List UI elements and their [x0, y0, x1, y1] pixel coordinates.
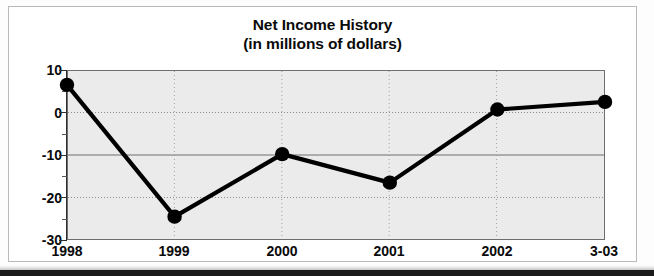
- chart-subtitle: (in millions of dollars): [9, 34, 636, 53]
- data-point-2002: [490, 102, 504, 116]
- chart-title-block: Net Income History (in millions of dolla…: [9, 15, 636, 53]
- data-point-markers: [60, 78, 612, 224]
- scan-edge-band: [0, 270, 654, 276]
- data-point-3-03: [598, 95, 612, 109]
- plot-area: [67, 70, 605, 240]
- x-tick-label-1998: 1998: [22, 243, 112, 259]
- x-tick-label-2002: 2002: [452, 243, 542, 259]
- data-point-2000: [275, 147, 289, 161]
- page-title: Net Income History: [9, 15, 636, 34]
- y-tick-major-0: [59, 112, 67, 113]
- y-tick-label-0: 0: [54, 106, 62, 120]
- data-point-1998: [60, 78, 74, 92]
- x-tick-label-1999: 1999: [129, 243, 219, 259]
- x-tick-label-3-03: 3-03: [559, 243, 649, 259]
- y-tick-major-10: [59, 70, 67, 71]
- scanned-page: Net Income History (in millions of dolla…: [0, 0, 654, 276]
- y-tick-label-m20: -20: [42, 191, 62, 205]
- line-chart-svg: [67, 70, 605, 240]
- data-point-2001: [383, 175, 397, 189]
- data-point-1999: [167, 209, 181, 223]
- x-tick-label-2000: 2000: [237, 243, 327, 259]
- y-tick-major-m20: [59, 197, 67, 198]
- y-tick-major-m10: [59, 155, 67, 156]
- x-tick-label-2001: 2001: [344, 243, 434, 259]
- data-series-line: [67, 85, 605, 217]
- y-tick-major-m30: [59, 240, 67, 241]
